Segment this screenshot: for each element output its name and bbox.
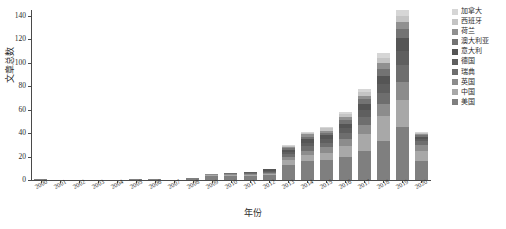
bar-segment bbox=[282, 165, 295, 180]
bar-group bbox=[31, 10, 431, 180]
bar-column[interactable] bbox=[412, 10, 431, 180]
legend-label: 英国 bbox=[461, 78, 475, 87]
legend-item[interactable]: 德国 bbox=[452, 57, 489, 66]
y-tick-label: 60 bbox=[2, 106, 26, 114]
bar-column[interactable] bbox=[298, 10, 317, 180]
legend-item[interactable]: 荷兰 bbox=[452, 27, 489, 36]
bar-segment bbox=[377, 93, 390, 104]
bar-column[interactable] bbox=[31, 10, 50, 180]
bar-segment bbox=[339, 157, 352, 180]
legend-swatch-icon bbox=[452, 89, 458, 95]
legend-item[interactable]: 意大利 bbox=[452, 47, 489, 56]
bar-column[interactable] bbox=[145, 10, 164, 180]
bar-column[interactable] bbox=[221, 10, 240, 180]
bar-segment bbox=[377, 104, 390, 116]
bar-segment bbox=[358, 117, 371, 125]
y-tick-label: 40 bbox=[2, 129, 26, 137]
bar-segment bbox=[396, 127, 409, 180]
bar-column[interactable] bbox=[164, 10, 183, 180]
bar-segment bbox=[377, 84, 390, 93]
bar-segment bbox=[358, 125, 371, 134]
bar-column[interactable] bbox=[88, 10, 107, 180]
bar-segment bbox=[396, 82, 409, 101]
plot-area bbox=[31, 10, 431, 180]
legend-swatch-icon bbox=[452, 19, 458, 25]
bar-column[interactable] bbox=[241, 10, 260, 180]
y-tick-label: 140 bbox=[2, 12, 26, 20]
legend-item[interactable]: 澳大利亚 bbox=[452, 37, 489, 46]
chart-root: 文章总数 020406080100120140 2000200120022003… bbox=[0, 0, 506, 229]
bar-segment bbox=[396, 51, 409, 65]
bar-column[interactable] bbox=[279, 10, 298, 180]
y-tick-label: 120 bbox=[2, 35, 26, 43]
bar-segment bbox=[377, 141, 390, 180]
legend-swatch-icon bbox=[452, 39, 458, 45]
bar-segment bbox=[377, 76, 390, 84]
bar-segment bbox=[396, 65, 409, 81]
bar-column[interactable] bbox=[69, 10, 88, 180]
bar-column[interactable] bbox=[355, 10, 374, 180]
bar-column[interactable] bbox=[336, 10, 355, 180]
y-tick-mark bbox=[28, 180, 31, 181]
legend-label: 荷兰 bbox=[461, 27, 475, 36]
bar-segment bbox=[358, 110, 371, 117]
legend-label: 美国 bbox=[461, 98, 475, 107]
legend-item[interactable]: 中国 bbox=[452, 88, 489, 97]
bar-column[interactable] bbox=[260, 10, 279, 180]
bar-column[interactable] bbox=[126, 10, 145, 180]
legend-label: 瑞典 bbox=[461, 68, 475, 77]
legend-label: 澳大利亚 bbox=[461, 37, 489, 46]
legend-swatch-icon bbox=[452, 9, 458, 15]
bar-segment bbox=[396, 29, 409, 38]
legend-item[interactable]: 美国 bbox=[452, 98, 489, 107]
bar-column[interactable] bbox=[374, 10, 393, 180]
legend-label: 德国 bbox=[461, 57, 475, 66]
bar-column[interactable] bbox=[202, 10, 221, 180]
legend-label: 西班牙 bbox=[461, 17, 482, 26]
bar-column[interactable] bbox=[107, 10, 126, 180]
bar-column[interactable] bbox=[393, 10, 412, 180]
bar-stack bbox=[301, 132, 314, 180]
legend-swatch-icon bbox=[452, 79, 458, 85]
legend-item[interactable]: 英国 bbox=[452, 78, 489, 87]
bar-segment bbox=[396, 100, 409, 127]
legend-item[interactable]: 加拿大 bbox=[452, 7, 489, 16]
bar-segment bbox=[415, 151, 428, 162]
x-axis-title: 年份 bbox=[0, 206, 506, 219]
bar-stack bbox=[320, 127, 333, 180]
y-tick-label: 100 bbox=[2, 59, 26, 67]
bar-segment bbox=[377, 116, 390, 142]
bar-segment bbox=[396, 22, 409, 29]
legend-label: 加拿大 bbox=[461, 7, 482, 16]
bar-stack bbox=[415, 132, 428, 180]
y-tick-label: 20 bbox=[2, 153, 26, 161]
bar-column[interactable] bbox=[317, 10, 336, 180]
y-tick-label: 0 bbox=[2, 176, 26, 184]
bar-segment bbox=[320, 160, 333, 180]
legend-swatch-icon bbox=[452, 29, 458, 35]
legend: 加拿大西班牙荷兰澳大利亚意大利德国瑞典英国中国美国 bbox=[452, 7, 489, 107]
y-tick-label: 80 bbox=[2, 82, 26, 90]
bar-stack bbox=[282, 145, 295, 180]
legend-swatch-icon bbox=[452, 59, 458, 65]
bar-stack bbox=[358, 89, 371, 180]
bar-stack bbox=[377, 53, 390, 180]
bar-segment bbox=[358, 134, 371, 150]
legend-label: 中国 bbox=[461, 88, 475, 97]
legend-swatch-icon bbox=[452, 99, 458, 105]
bar-stack bbox=[396, 10, 409, 180]
bar-segment bbox=[396, 38, 409, 51]
bar-column[interactable] bbox=[50, 10, 69, 180]
bar-segment bbox=[320, 153, 333, 160]
bar-segment bbox=[339, 146, 352, 157]
legend-swatch-icon bbox=[452, 69, 458, 75]
bar-segment bbox=[415, 161, 428, 180]
bar-stack bbox=[339, 112, 352, 180]
bar-segment bbox=[358, 151, 371, 180]
bar-segment bbox=[301, 161, 314, 180]
bar-column[interactable] bbox=[183, 10, 202, 180]
legend-item[interactable]: 瑞典 bbox=[452, 68, 489, 77]
bar-segment bbox=[377, 69, 390, 76]
legend-item[interactable]: 西班牙 bbox=[452, 17, 489, 26]
legend-swatch-icon bbox=[452, 49, 458, 55]
